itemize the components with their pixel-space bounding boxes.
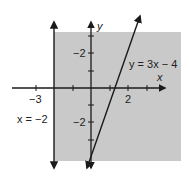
x-tick-label-2: 2 xyxy=(125,93,131,105)
y-tick-label-bottom: −2 xyxy=(73,116,86,128)
equation-label-vertical: x = −2 xyxy=(17,113,48,125)
x-axis-label: x xyxy=(156,71,163,83)
equation-label-line: y = 3x − 4 xyxy=(129,58,177,70)
x-tick-label-neg3: −3 xyxy=(29,93,42,105)
y-tick-label-top: −2 xyxy=(73,47,86,59)
graph: y x −3 2 −2 −2 x = −2 y = 3x − 4 xyxy=(0,0,189,179)
y-axis-label: y xyxy=(96,20,104,32)
